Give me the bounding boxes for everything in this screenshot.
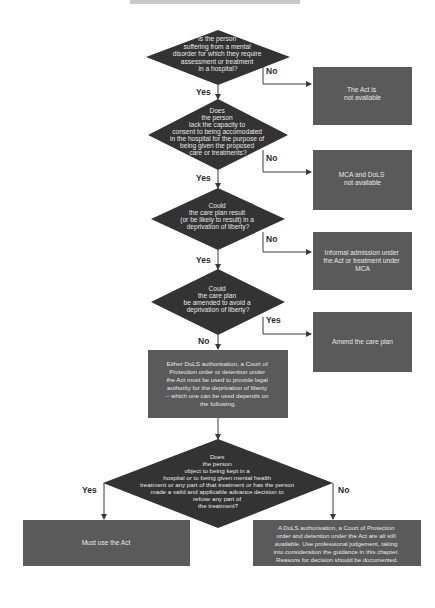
decision-4: Could the care plan be amended to avoid … [151,269,285,335]
label-d1-no: No [266,66,277,76]
label-d2-no: No [266,153,277,163]
decision-1: Is the person suffering from a mental di… [146,30,290,85]
decision-2-text: Does the person lack the capacity to con… [170,107,266,156]
label-d3-yes: Yes [196,255,211,265]
outcome-mca-dols-not-available: MCA and DoLS not available [313,150,412,210]
outcome-2-text: MCA and DoLS not available [339,171,386,186]
outcome-must-use-act: Must use the Act [23,520,190,566]
outcome-7-text: A DoLS authorisation, a Court of Protect… [273,524,400,563]
outcome-dols-still-available: A DoLS authorisation, a Court of Protect… [253,520,421,566]
label-d1-yes: Yes [196,87,211,97]
outcome-1-text: The Act is not available [344,86,381,101]
decision-5: Does the person object to being kept in … [103,439,333,528]
flowchart: Is the person suffering from a mental di… [0,0,435,608]
label-d3-no: No [266,234,277,244]
label-d5-no: No [338,485,349,495]
label-d5-yes: Yes [82,485,97,495]
outcome-act-not-available: The Act is not available [313,67,412,125]
label-d2-yes: Yes [196,173,211,183]
outcome-4-text: Amend the care plan [332,338,393,346]
outcome-6-text: Must use the Act [82,539,131,546]
outcome-informal-admission: Informal admission under the Act or trea… [313,232,412,290]
outcome-either-dols: Either DoLS authorisation, a Court of Pr… [148,350,288,418]
label-d4-no: No [198,336,209,346]
outcome-amend-care-plan: Amend the care plan [313,312,412,372]
decision-3: Could the care plan result (or be likely… [151,188,285,250]
label-d4-yes: Yes [266,315,281,325]
